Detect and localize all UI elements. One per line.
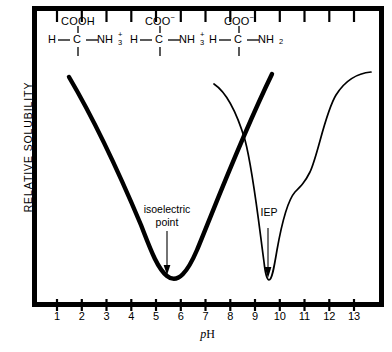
- structure-cationic: COOH: [48, 15, 108, 27]
- iep-annotation: IEP: [253, 206, 285, 219]
- x-tick-label-13: 13: [342, 310, 366, 322]
- structure-zwitterion-top-text: COO: [145, 15, 171, 27]
- structure-zwitterion-top-group: COO−: [130, 15, 190, 27]
- x-tick-label-2: 2: [70, 310, 94, 322]
- x-tick-label-12: 12: [317, 310, 341, 322]
- structure-cationic-charge: + 3: [118, 33, 123, 44]
- structure-cationic-top-text: COOH: [61, 15, 95, 27]
- structure-anionic-top-sup: −: [250, 13, 255, 22]
- structure-zwitterion-c: C: [155, 33, 163, 45]
- x-tick-label-5: 5: [144, 310, 168, 322]
- x-tick-label-4: 4: [119, 310, 143, 322]
- structure-anionic-sub: 2: [279, 37, 283, 46]
- structure-anionic-n: NH: [258, 33, 274, 45]
- x-tick-label-10: 10: [268, 310, 292, 322]
- x-tick-label-11: 11: [293, 310, 317, 322]
- broad-solubility-curve: [69, 74, 272, 279]
- structure-anionic-top-group: COO−: [209, 15, 269, 27]
- sharp-solubility-curve: [214, 72, 371, 280]
- x-tick-label-9: 9: [243, 310, 267, 322]
- structure-zwitterion-n: NH: [179, 33, 195, 45]
- structure-zwitterion: COO−: [130, 15, 190, 27]
- structure-zwitterion-charge: + 3: [200, 33, 205, 44]
- structure-cationic-top-group: COOH: [48, 15, 108, 27]
- x-axis-title-rest: H: [206, 327, 215, 341]
- structure-cationic-sub: 3: [118, 38, 122, 47]
- x-tick-label-3: 3: [95, 310, 119, 322]
- plot-canvas: [0, 0, 392, 352]
- structure-anionic-top-text: COO: [224, 15, 250, 27]
- structure-cationic-c: C: [73, 33, 81, 45]
- structure-zwitterion-h: H: [130, 33, 138, 45]
- x-tick-label-1: 1: [45, 310, 69, 322]
- isoelectric-point-line2: point: [156, 216, 179, 228]
- isoelectric-point-arrow: [164, 231, 171, 275]
- isoelectric-point-annotation: isoelectric point: [130, 203, 204, 228]
- x-tick-label-7: 7: [194, 310, 218, 322]
- solubility-vs-ph-figure: RELATIVE SOLUBILITY pH 1 2 3 4 5 6 7 8 9…: [0, 0, 392, 352]
- plot-frame: [35, 9, 382, 305]
- structure-zwitterion-top-sup: −: [171, 13, 176, 22]
- structure-zwitterion-sub: 3: [200, 38, 204, 47]
- structure-anionic-h: H: [209, 33, 217, 45]
- x-tick-label-8: 8: [218, 310, 242, 322]
- structure-cationic-n: NH: [97, 33, 113, 45]
- structure-anionic: COO−: [209, 15, 269, 27]
- structure-cationic-h: H: [48, 33, 56, 45]
- x-axis-title: pH: [33, 327, 382, 342]
- x-tick-label-6: 6: [169, 310, 193, 322]
- y-axis-title: RELATIVE SOLUBILITY: [22, 52, 34, 242]
- isoelectric-point-line1: isoelectric: [144, 203, 191, 215]
- structure-anionic-c: C: [234, 33, 242, 45]
